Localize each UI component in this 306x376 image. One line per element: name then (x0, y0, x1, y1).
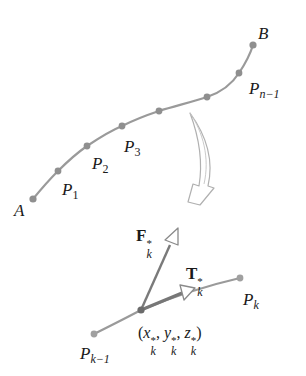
label-pk-1-sub: k−1 (90, 352, 109, 366)
label-pn-1: Pn−1 (249, 80, 280, 100)
point-a (29, 195, 36, 202)
point-pk (237, 275, 244, 282)
point-p1 (55, 168, 62, 175)
point-p2 (84, 143, 91, 150)
sample-z-sub: k (191, 346, 197, 357)
curve-a-to-b (33, 45, 253, 199)
label-a: A (14, 202, 24, 219)
label-p3-sub: 3 (134, 145, 140, 159)
label-b: B (258, 25, 268, 42)
partition-points (29, 41, 256, 202)
label-p3-base: P (124, 137, 134, 156)
point-p4 (156, 108, 163, 115)
sample-sep-1: , (156, 324, 164, 341)
label-p1-base: P (62, 180, 72, 199)
label-p2-base: P (92, 154, 102, 173)
curved-down-arrow-icon (188, 113, 214, 205)
sample-close-paren: ) (196, 324, 201, 341)
sample-x: x (143, 324, 150, 341)
point-p5 (204, 94, 211, 101)
diagram-canvas (0, 0, 306, 376)
sample-sep-2: , (177, 324, 185, 341)
label-sample-point: (x*k, y*k, z*k) (138, 325, 202, 357)
label-f-scripts: *k (146, 239, 152, 260)
label-b-text: B (258, 24, 268, 43)
label-t-sub: k (197, 287, 203, 298)
label-pn-1-base: P (249, 79, 259, 98)
label-p1-sub: 1 (72, 188, 78, 202)
label-f-base: F (136, 226, 146, 245)
force-vector-arrowhead-icon (165, 228, 178, 245)
sample-y-sub: k (171, 346, 177, 357)
label-f-sub: k (146, 249, 152, 260)
label-p2-sub: 2 (102, 162, 108, 176)
label-pk-base: P (243, 290, 253, 309)
label-pn-1-sub: n−1 (259, 87, 279, 101)
label-t-base: T (186, 264, 197, 283)
label-p3: P3 (124, 138, 140, 158)
label-pk-sub: k (253, 298, 258, 312)
label-pk-1-base: P (80, 344, 90, 363)
point-b (249, 41, 256, 48)
label-t-scripts: *k (197, 277, 203, 298)
label-pk: Pk (243, 291, 259, 311)
label-p2: P2 (92, 155, 108, 175)
point-pk-1 (91, 331, 98, 338)
point-pn-1 (236, 70, 243, 77)
sample-y: y (164, 324, 171, 341)
label-p1: P1 (62, 181, 78, 201)
point-sample (137, 306, 144, 313)
label-pk-1: Pk−1 (80, 345, 110, 365)
point-p3 (119, 123, 126, 130)
label-a-text: A (14, 201, 24, 220)
sample-x-sub: k (150, 346, 156, 357)
label-force-vector: F*k (136, 227, 152, 260)
label-tangent-vector: T*k (186, 265, 203, 298)
